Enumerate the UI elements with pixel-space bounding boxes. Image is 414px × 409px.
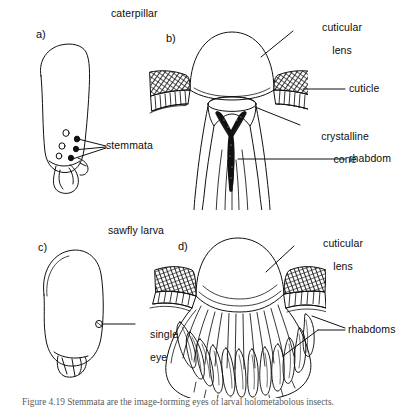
label-cuticular-lens-b: cuticular lens (296, 10, 376, 68)
label-single-eye-line2: eye (150, 351, 167, 363)
figure-caption-clip: Figure 4.19 Stemmata are the image-formi… (0, 398, 414, 409)
panel-b-artwork (150, 32, 314, 250)
axon-bundle (194, 212, 270, 250)
figure-caption: Figure 4.19 Stemmata are the image-formi… (22, 398, 394, 408)
panel-letter-a: a) (36, 28, 46, 40)
panel-letter-d: d) (178, 240, 188, 252)
single-eye-circle (96, 320, 103, 327)
label-cuticular-lens-d: cuticular lens (297, 226, 377, 284)
label-rhabdom: rhabdom (349, 153, 391, 165)
label-cuticular-lens-d-line1: cuticular (323, 237, 363, 249)
label-cuticle: cuticle (349, 83, 379, 95)
label-single-eye: single eye (138, 317, 178, 375)
label-cuticular-lens-b-line1: cuticular (322, 21, 362, 33)
label-cuticular-lens-d-line2: lens (333, 260, 353, 272)
panel-a-artwork (40, 44, 106, 193)
label-cuticular-lens-b-line2: lens (332, 44, 352, 56)
label-single-eye-line1: single (150, 328, 178, 340)
label-crystalline-cone: crystalline cone (296, 119, 382, 177)
panel-letter-b: b) (166, 32, 176, 44)
panel-c-artwork (44, 250, 135, 377)
group-title-caterpillar: caterpillar (111, 8, 158, 20)
label-rhabdoms: rhabdoms (348, 324, 396, 336)
figure-root: caterpillar a) b) stemmata cuticular len… (0, 0, 414, 409)
label-crystalline-cone-line1: crystalline (321, 130, 369, 142)
group-title-sawfly-larva: sawfly larva (108, 225, 164, 237)
label-stemmata: stemmata (106, 140, 153, 152)
panel-letter-c: c) (38, 241, 47, 253)
rhabdom-column (216, 111, 246, 192)
stemmata-circles (56, 130, 80, 161)
